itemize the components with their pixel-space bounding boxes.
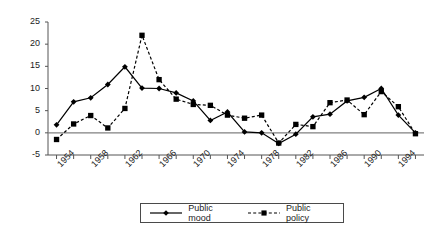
data-point-square	[122, 106, 127, 111]
data-point-diamond	[361, 94, 367, 100]
y-tick-label: 25	[18, 16, 40, 26]
data-point-square	[379, 89, 384, 94]
chart-figure: Liberalism -5051015202519541958196219661…	[0, 0, 448, 237]
data-point-square	[242, 116, 247, 121]
data-point-square	[225, 112, 230, 117]
data-point-square	[396, 104, 401, 109]
data-point-diamond	[173, 90, 179, 96]
data-point-square	[276, 140, 281, 145]
data-point-square	[293, 122, 298, 127]
data-point-square	[174, 96, 179, 101]
data-point-diamond	[259, 130, 265, 136]
legend-swatch-diamond-icon	[149, 208, 182, 218]
y-tick-label: 0	[18, 127, 40, 137]
legend-label: Public mood	[186, 203, 236, 223]
series-line	[57, 67, 416, 144]
chart-legend: Public moodPublic policy	[140, 203, 344, 223]
data-point-square	[191, 102, 196, 107]
data-point-square	[208, 103, 213, 108]
data-point-square	[71, 121, 76, 126]
y-tick-label: 15	[18, 60, 40, 70]
data-point-diamond	[163, 210, 169, 216]
data-point-square	[362, 112, 367, 117]
legend-item: Public policy	[247, 203, 335, 223]
legend-label: Public policy	[284, 203, 335, 223]
data-point-square	[105, 125, 110, 130]
data-point-diamond	[156, 86, 162, 92]
data-point-square	[139, 33, 144, 38]
data-point-square	[327, 100, 332, 105]
y-tick-label: 20	[18, 38, 40, 48]
data-point-square	[259, 112, 264, 117]
legend-item: Public mood	[149, 203, 237, 223]
data-point-square	[344, 97, 349, 102]
data-point-square	[261, 210, 266, 215]
data-point-square	[310, 124, 315, 129]
chart-svg	[0, 0, 448, 237]
data-point-square	[156, 77, 161, 82]
y-tick-label: 5	[18, 105, 40, 115]
series-public-policy	[54, 33, 418, 146]
y-tick-label: -5	[18, 149, 40, 159]
y-tick-label: 10	[18, 83, 40, 93]
legend-swatch-square-icon	[247, 208, 280, 218]
series-public-mood	[54, 64, 419, 146]
data-point-square	[413, 131, 418, 136]
data-point-square	[88, 113, 93, 118]
data-point-square	[54, 137, 59, 142]
